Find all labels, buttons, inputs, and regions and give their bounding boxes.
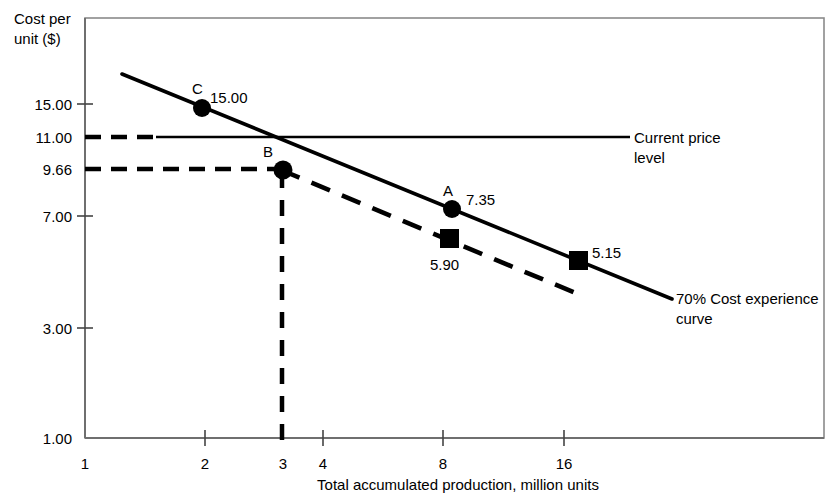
data-point-b[interactable] [274, 161, 293, 180]
y-tick-label-11: 11.00 [36, 129, 72, 146]
y-axis-title-line2: unit ($) [14, 30, 61, 47]
y-axis-title-line1: Cost per [14, 10, 71, 27]
point-value-590: 5.90 [430, 256, 459, 273]
x-tick-label-16: 16 [556, 455, 573, 472]
x-tick-label-2: 2 [201, 455, 209, 472]
lower-cost-trajectory-line [281, 170, 585, 297]
data-point-square-515[interactable] [569, 251, 588, 270]
x-tick-label-8: 8 [439, 455, 447, 472]
y-tick-label-1: 1.00 [43, 430, 72, 447]
annotation-curve-line2: curve [676, 310, 713, 327]
x-tick-label-3: 3 [279, 455, 287, 472]
data-point-c[interactable] [193, 99, 211, 117]
y-tick-label-966: 9.66 [43, 161, 72, 178]
data-point-square-590[interactable] [440, 229, 459, 248]
point-label-b: B [263, 143, 273, 160]
cost-experience-curve-chart: Cost per unit ($) 15.00 11.00 9.66 7.00 … [0, 0, 836, 498]
x-tick-label-1: 1 [81, 455, 89, 472]
point-label-c: C [192, 80, 203, 97]
x-tick-label-4: 4 [319, 455, 327, 472]
point-label-a: A [443, 182, 453, 199]
data-point-a[interactable] [443, 200, 461, 218]
annotation-curve-line1: 70% Cost experience [676, 290, 819, 307]
annotation-current-price-line2: level [634, 149, 665, 166]
x-axis-title: Total accumulated production, million un… [317, 476, 599, 493]
annotation-current-price-line1: Current price [634, 129, 721, 146]
chart-container: Cost per unit ($) 15.00 11.00 9.66 7.00 … [0, 0, 836, 498]
point-value-a: 7.35 [466, 191, 495, 208]
point-value-c: 15.00 [210, 89, 248, 106]
point-value-515: 5.15 [592, 244, 621, 261]
y-tick-label-3: 3.00 [43, 320, 72, 337]
y-tick-label-15: 15.00 [34, 96, 72, 113]
y-tick-label-7: 7.00 [43, 208, 72, 225]
